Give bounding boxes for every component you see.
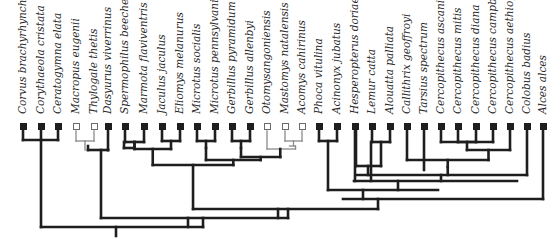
phylogenetic-tree-figure: Corvus brachyrhynchosCorythaeola cristat… <box>0 0 558 250</box>
tree-branches <box>0 0 558 250</box>
